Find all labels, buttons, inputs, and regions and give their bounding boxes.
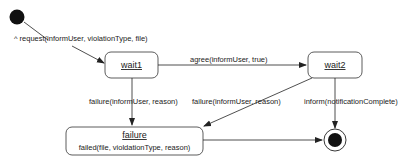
transition-label-request: ^ request(informUser, violationType, fil…	[14, 34, 148, 43]
transition-label-failure-2: failure(informUser, reason)	[192, 97, 281, 106]
svg-text:wait1: wait1	[120, 60, 142, 70]
svg-text:wait2: wait2	[323, 60, 345, 70]
svg-text:failed(file, violdationType, r: failed(file, violdationType, reason)	[79, 143, 191, 152]
state-wait1: wait1	[105, 52, 158, 78]
initial-state	[10, 10, 25, 25]
transition-label-inform: inform(notificationComplete)	[304, 97, 398, 106]
svg-text:failure: failure	[122, 130, 147, 140]
state-failure: failure failed(file, violdationType, rea…	[66, 127, 203, 155]
transition-label-agree: agree(informUser, true)	[190, 55, 268, 64]
state-wait2: wait2	[308, 52, 362, 78]
state-diagram: ^ request(informUser, violationType, fil…	[0, 0, 409, 164]
transition-label-failure-1: failure(informUser, reason)	[89, 97, 178, 106]
final-state	[324, 129, 346, 151]
